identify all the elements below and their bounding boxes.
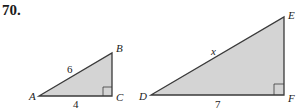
side-label-ab: 6 <box>67 63 73 75</box>
side-label-ac: 4 <box>73 98 79 110</box>
vertex-label-c: C <box>116 91 124 103</box>
vertex-label-a: A <box>28 90 36 102</box>
vertex-label-d: D <box>138 90 147 102</box>
triangle-abc: A B C 6 4 <box>28 42 124 110</box>
vertex-label-e: E <box>287 9 295 21</box>
vertex-label-f: F <box>287 92 295 104</box>
vertex-label-b: B <box>116 42 123 54</box>
side-label-de: x <box>210 45 216 57</box>
similar-triangles-figure: A B C 6 4 D E F x 7 <box>0 0 306 111</box>
triangle-def: D E F x 7 <box>138 9 295 110</box>
side-label-df: 7 <box>215 98 221 110</box>
